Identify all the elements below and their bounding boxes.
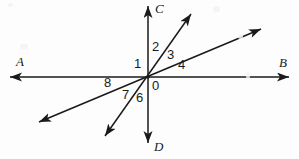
- angle-label-8: 8: [104, 76, 111, 89]
- scan-artifact: [238, 34, 243, 39]
- point-label-C: C: [155, 2, 164, 15]
- angle-label-3: 3: [167, 48, 174, 61]
- scan-artifact: [8, 3, 13, 7]
- point-label-B: B: [279, 56, 287, 69]
- geometry-figure: [0, 0, 299, 159]
- point-label-D: D: [154, 140, 163, 153]
- angle-label-7: 7: [122, 88, 129, 101]
- angle-label-1: 1: [134, 57, 141, 70]
- origin-point: [146, 75, 150, 79]
- angle-label-6: 6: [136, 91, 143, 104]
- angle-label-4: 4: [178, 58, 185, 71]
- scan-artifact: [20, 44, 28, 49]
- angle-label-0: 0: [152, 79, 159, 92]
- scan-artifact: [246, 72, 250, 79]
- scan-artifact: [213, 6, 220, 12]
- angle-label-2: 2: [152, 40, 159, 53]
- diagram-canvas: A B C D 1 2 3 4 6 7 8 0: [0, 0, 299, 159]
- line-shallow-oblique: [39, 29, 261, 122]
- point-label-A: A: [16, 55, 24, 68]
